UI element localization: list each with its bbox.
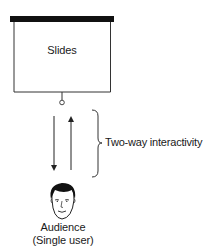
interaction-arrows xyxy=(54,116,71,170)
two-way-interactivity-label: Two-way interactivity xyxy=(105,136,202,148)
diagram-canvas xyxy=(0,0,219,251)
audience-label-line1: Audience xyxy=(20,221,106,234)
screen-top-bar xyxy=(10,16,114,22)
face-icon xyxy=(50,183,75,219)
pull-ring-icon xyxy=(60,100,65,105)
slides-label: Slides xyxy=(13,44,111,56)
audience-label: Audience (Single user) xyxy=(20,221,106,247)
curly-brace-icon xyxy=(92,110,102,177)
audience-label-line2: (Single user) xyxy=(20,234,106,247)
projection-screen xyxy=(10,16,114,105)
